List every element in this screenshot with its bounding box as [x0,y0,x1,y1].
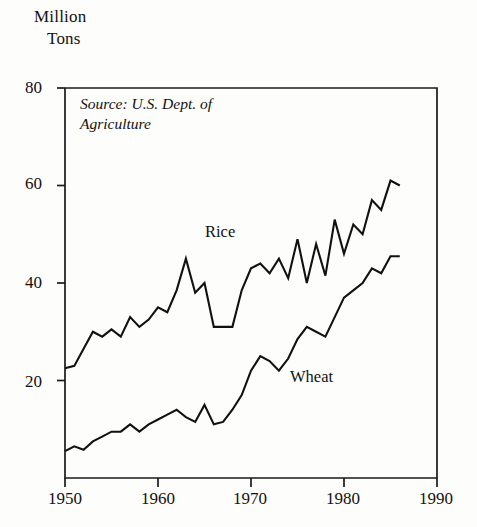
data-line-rice [65,181,400,369]
plot-canvas [0,0,477,527]
plot-frame [65,88,437,478]
chart-figure: Million Tons Source: U.S. Dept. of Agric… [0,0,477,527]
tick-marks-group [57,88,437,487]
data-line-wheat [65,256,400,451]
